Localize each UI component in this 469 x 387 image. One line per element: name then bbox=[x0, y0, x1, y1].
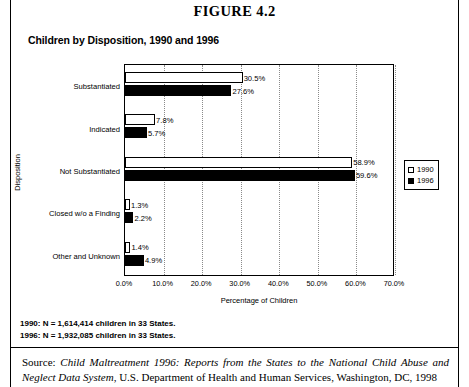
source-rest: , U.S. Department of Health and Human Se… bbox=[114, 371, 437, 383]
category-label: Not Substantiated bbox=[60, 166, 120, 175]
bar-value-label: 58.9% bbox=[353, 158, 375, 167]
bar-value-label: 4.9% bbox=[145, 256, 162, 265]
source-prefix: Source: bbox=[22, 356, 60, 368]
legend-item-1996: 1996 bbox=[408, 175, 434, 186]
bar-1996: 27.6% bbox=[125, 85, 231, 96]
chart-category-row: Closed w/o a Finding1.3%2.2% bbox=[125, 192, 393, 234]
sample-size-notes: 1990: N = 1,614,414 children in 33 State… bbox=[20, 318, 175, 341]
chart-category-row: Other and Unknown1.4%4.9% bbox=[125, 235, 393, 277]
bar-1996: 2.2% bbox=[125, 212, 133, 223]
bar-1990: 30.5% bbox=[125, 72, 243, 83]
legend-swatch bbox=[408, 167, 414, 173]
x-tick-label: 70.0% bbox=[384, 279, 405, 288]
bar-value-label: 30.5% bbox=[244, 73, 266, 82]
legend-swatch bbox=[408, 178, 414, 184]
y-axis-title: Disposition bbox=[13, 128, 22, 218]
category-label: Substantiated bbox=[74, 82, 120, 91]
bar-1996: 4.9% bbox=[125, 255, 144, 266]
x-axis-title: Percentage of Children bbox=[124, 296, 394, 305]
bar-1996: 59.6% bbox=[125, 170, 355, 181]
bar-value-label: 59.6% bbox=[356, 171, 378, 180]
bar-value-label: 27.6% bbox=[232, 86, 254, 95]
bar-value-label: 1.3% bbox=[131, 200, 148, 209]
x-tick-label: 30.0% bbox=[229, 279, 250, 288]
x-tick-label: 40.0% bbox=[268, 279, 289, 288]
bar-1990: 1.3% bbox=[125, 199, 130, 210]
x-tick-label: 10.0% bbox=[152, 279, 173, 288]
x-tick-label: 0.0% bbox=[116, 279, 133, 288]
bar-chart: Disposition Substantiated30.5%27.6%Indic… bbox=[0, 60, 469, 310]
x-tick-label: 60.0% bbox=[345, 279, 366, 288]
category-label: Other and Unknown bbox=[52, 251, 120, 260]
legend-label: 1990 bbox=[417, 164, 434, 175]
legend-label: 1996 bbox=[417, 175, 434, 186]
note-line-1996: 1996: N = 1,932,085 children in 33 State… bbox=[20, 330, 175, 342]
x-axis-ticks: 0.0%10.0%20.0%30.0%40.0%50.0%60.0%70.0% bbox=[124, 279, 394, 291]
legend-item-1990: 1990 bbox=[408, 164, 434, 175]
source-divider bbox=[11, 347, 458, 348]
category-label: Closed w/o a Finding bbox=[49, 209, 120, 218]
bar-1990: 1.4% bbox=[125, 242, 130, 253]
chart-subtitle: Children by Disposition, 1990 and 1996 bbox=[28, 34, 219, 46]
chart-category-row: Not Substantiated58.9%59.6% bbox=[125, 150, 393, 192]
plot-area: Substantiated30.5%27.6%Indicated7.8%5.7%… bbox=[124, 64, 394, 276]
chart-legend: 19901996 bbox=[404, 160, 439, 190]
source-citation: Source: Child Maltreatment 1996: Reports… bbox=[22, 355, 449, 385]
bar-1996: 5.7% bbox=[125, 127, 147, 138]
x-tick-label: 50.0% bbox=[306, 279, 327, 288]
chart-category-row: Substantiated30.5%27.6% bbox=[125, 65, 393, 107]
bar-value-label: 7.8% bbox=[156, 115, 173, 124]
figure-number: FIGURE 4.2 bbox=[0, 3, 469, 20]
category-label: Indicated bbox=[89, 124, 120, 133]
bar-value-label: 2.2% bbox=[134, 213, 151, 222]
note-line-1990: 1990: N = 1,614,414 children in 33 State… bbox=[20, 318, 175, 330]
bar-1990: 58.9% bbox=[125, 157, 352, 168]
bar-value-label: 1.4% bbox=[131, 243, 148, 252]
bar-1990: 7.8% bbox=[125, 114, 155, 125]
bar-value-label: 5.7% bbox=[148, 128, 165, 137]
x-tick-label: 20.0% bbox=[191, 279, 212, 288]
gridline bbox=[395, 65, 396, 275]
chart-category-row: Indicated7.8%5.7% bbox=[125, 107, 393, 149]
